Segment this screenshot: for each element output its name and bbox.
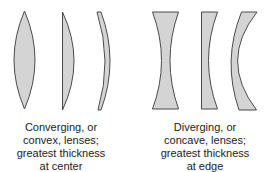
diverging-caption: Diverging, or concave, lenses; greatest … [145,121,265,172]
caption-line: at edge [145,160,265,172]
convex-meniscus-lens-icon [97,12,110,110]
caption-line: at center [1,160,121,172]
plano-concave-lens-icon [202,12,218,109]
biconcave-lens-icon [153,12,179,109]
caption-line: Converging, or [1,121,121,134]
converging-lenses-group [14,11,110,110]
caption-line: Diverging, or [145,121,265,134]
diverging-lenses-group [153,12,258,110]
caption-line: greatest thickness [145,147,265,160]
converging-caption: Converging, or convex, lenses; greatest … [1,121,121,172]
plano-convex-lens-icon [63,12,75,110]
concave-meniscus-lens-icon [231,12,257,110]
caption-line: greatest thickness [1,147,121,160]
biconvex-lens-icon [14,11,35,109]
caption-line: convex, lenses; [1,134,121,147]
caption-line: concave, lenses; [145,134,265,147]
lens-diagram: Converging, or convex, lenses; greatest … [0,0,269,172]
